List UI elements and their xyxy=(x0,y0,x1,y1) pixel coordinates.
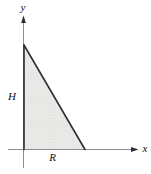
y-axis-label: y xyxy=(16,1,30,13)
triangle-diagram: y x H R xyxy=(0,0,151,174)
triangle-height-label: H xyxy=(5,90,19,102)
y-axis-arrow xyxy=(21,16,26,24)
diagram-svg xyxy=(0,0,151,174)
x-axis-label: x xyxy=(138,142,151,154)
triangle-base-label: R xyxy=(45,151,60,163)
